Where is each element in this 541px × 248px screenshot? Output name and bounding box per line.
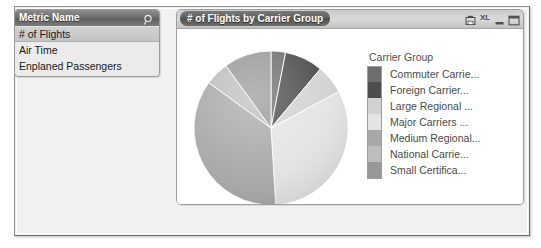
legend-item[interactable]: Foreign Carrier... <box>367 82 517 98</box>
chart-title: # of Flights by Carrier Group <box>187 11 323 26</box>
legend-label: Medium Regional... <box>390 132 480 144</box>
legend-item[interactable]: Medium Regional... <box>367 130 517 146</box>
list-item[interactable]: Enplaned Passengers <box>15 58 159 74</box>
magnifier-icon[interactable] <box>143 12 154 24</box>
list-item[interactable]: Air Time <box>15 42 159 58</box>
chart-titlebar: # of Flights by Carrier Group XL <box>177 10 523 29</box>
legend-label: Foreign Carrier... <box>390 84 469 96</box>
list-item[interactable]: # of Flights <box>15 26 159 42</box>
chart-panel: # of Flights by Carrier Group XL <box>176 9 524 205</box>
chart-title-pill: # of Flights by Carrier Group <box>180 11 330 26</box>
pie-chart-svg <box>191 49 351 205</box>
metric-list[interactable]: # of Flights Air Time Enplaned Passenger… <box>15 26 159 74</box>
legend-item[interactable]: National Carrie... <box>367 146 517 162</box>
metric-panel-title: Metric Name <box>19 10 80 26</box>
legend-label: National Carrie... <box>390 148 469 160</box>
legend-swatch <box>367 98 382 114</box>
metric-item-label: Air Time <box>19 44 58 56</box>
legend-title: Carrier Group <box>367 51 517 63</box>
legend-swatch <box>367 66 382 83</box>
legend-item[interactable]: Commuter Carrie... <box>367 66 517 82</box>
export-excel-icon[interactable]: XL <box>479 12 491 23</box>
minimize-icon[interactable] <box>494 12 505 23</box>
legend-swatch <box>367 146 382 162</box>
legend-label: Major Carriers ... <box>390 116 468 128</box>
legend-label: Commuter Carrie... <box>390 68 479 80</box>
maximize-icon[interactable] <box>508 12 519 23</box>
legend-item[interactable]: Small Certifica... <box>367 162 517 178</box>
legend-swatch <box>367 82 382 98</box>
legend-swatch <box>367 162 382 179</box>
metric-name-panel: Metric Name # of Flights Air Time Enplan… <box>14 9 160 77</box>
legend-label: Large Regional ... <box>390 100 473 112</box>
legend-item[interactable]: Major Carriers ... <box>367 114 517 130</box>
legend-item[interactable]: Large Regional ... <box>367 98 517 114</box>
metric-item-label: Enplaned Passengers <box>19 60 122 72</box>
legend-rows: Commuter Carrie...Foreign Carrier...Larg… <box>367 66 517 178</box>
titlebar-icon-group: XL <box>465 12 519 23</box>
legend-label: Small Certifica... <box>390 164 466 176</box>
screenshot-root: Metric Name # of Flights Air Time Enplan… <box>0 0 541 248</box>
metric-item-label: # of Flights <box>19 28 70 40</box>
legend-swatch <box>367 130 382 146</box>
pie-chart[interactable] <box>191 49 351 205</box>
save-grid-icon[interactable] <box>465 12 476 23</box>
metric-panel-header: Metric Name <box>15 10 159 26</box>
plot-area: Carrier Group Commuter Carrie...Foreign … <box>177 29 523 205</box>
chart-legend: Carrier Group Commuter Carrie...Foreign … <box>367 51 517 178</box>
legend-swatch <box>367 114 382 130</box>
